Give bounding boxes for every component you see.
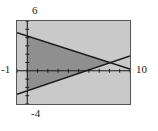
window-ymax-label: 6 <box>32 5 38 16</box>
window-ymin-label: -4 <box>31 108 40 119</box>
graph-plot-area <box>16 20 131 105</box>
graph-canvas <box>17 21 130 104</box>
window-xmax-label: 10 <box>136 64 147 75</box>
window-xmin-label: -1 <box>1 64 10 75</box>
graph-screenshot: 6 -4 -1 10 <box>0 0 158 131</box>
shaded-region <box>27 36 110 91</box>
